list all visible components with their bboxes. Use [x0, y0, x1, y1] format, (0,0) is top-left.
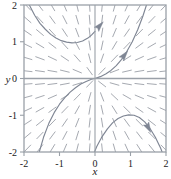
- y-tick-label: 2: [12, 0, 17, 11]
- x-tick-label: 2: [164, 158, 169, 169]
- x-axis-label: x: [92, 165, 98, 177]
- x-tick-label: 1: [128, 158, 133, 169]
- x-tick-label: -2: [20, 158, 28, 169]
- y-tick-label: 0: [12, 73, 17, 84]
- y-tick-label: -1: [9, 110, 17, 121]
- direction-field-figure: -2-1012-2-1012 x y: [0, 0, 171, 179]
- y-tick-label: 1: [12, 36, 17, 47]
- plot-canvas: -2-1012-2-1012 x y: [0, 0, 171, 179]
- y-axis-label: y: [5, 73, 11, 85]
- y-tick-label: -2: [9, 147, 17, 158]
- x-tick-label: -1: [55, 158, 63, 169]
